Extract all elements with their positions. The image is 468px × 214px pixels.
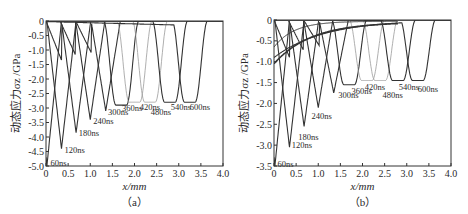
series-180ns [46,21,223,133]
series-label: 240ns [312,111,332,121]
series-label: 240ns [93,116,113,126]
chart-panel-a: 00.51.01.52.02.53.03.54.00-0.5-1.0-1.5-2… [0,0,234,214]
y-tick-label: -4.5 [28,146,44,157]
y-tick-label: -5.0 [28,161,44,172]
chart-b-svg: 00.51.01.52.02.53.03.54.00-0.5-1.0-1.5-2… [234,0,468,214]
x-tick-label: 3.0 [401,168,414,179]
y-tick-label: -2.0 [256,98,272,109]
y-tick-label: -2.5 [256,119,272,130]
series-600ns [46,21,223,102]
y-tick-label: -1.5 [256,77,272,88]
series-label: 480ns [151,107,171,117]
x-tick-label: 2.0 [356,168,369,179]
series-label: 540ns [399,82,419,92]
x-tick-label: 0.5 [290,168,303,179]
series-360ns [46,21,223,105]
series-480ns [46,21,223,102]
x-tick-label: 1.0 [84,168,97,179]
x-tick-label: 3.0 [173,168,186,179]
x-tick-label: 2.0 [128,168,141,179]
series-label: 60ns [50,158,66,168]
y-tick-label: -3.0 [28,103,44,114]
x-tick-label: 0 [272,168,277,179]
series-540ns [46,21,223,102]
series-label: 540ns [171,102,191,112]
x-tick-label: 1.0 [312,168,325,179]
series-label: 120ns [65,145,85,155]
series-label: 180ns [298,132,318,142]
y-tick-label: -3.5 [28,117,44,128]
y-tick-label: -3.5 [256,161,272,172]
x-tick-label: 0.5 [62,168,75,179]
panel-caption: （a） [121,196,148,208]
x-tick-label: 2.5 [378,168,391,179]
series-label: 60ns [278,159,294,169]
y-tick-label: -1.0 [28,45,44,56]
series-label: 180ns [79,128,99,138]
y-tick-label: -2.5 [28,88,44,99]
y-tick-label: 0 [267,15,272,26]
y-axis-title: 动态应力σz /GPa [9,54,22,134]
x-axis-title: x/mm [122,180,147,192]
y-tick-label: -1.0 [256,56,272,67]
y-axis-title: 动态应力σz /GPa [237,53,250,133]
x-tick-label: 3.5 [195,168,208,179]
y-tick-label: -3.0 [256,140,272,151]
series-420ns [46,21,223,102]
panel-caption: （b） [349,196,377,208]
x-tick-label: 4.0 [445,168,458,179]
chart-panel-b: 00.51.01.52.02.53.03.54.00-0.5-1.0-1.5-2… [234,0,468,214]
y-tick-label: -0.5 [28,30,44,41]
y-tick-label: -4.0 [28,132,44,143]
x-tick-label: 1.5 [334,168,347,179]
series-label: 600ns [418,84,438,94]
y-tick-label: 0 [39,16,44,27]
y-tick-label: -1.5 [28,59,44,70]
x-tick-label: 0 [44,168,49,179]
x-tick-label: 2.5 [150,168,163,179]
x-tick-label: 4.0 [217,168,230,179]
series-label: 600ns [190,102,210,112]
y-tick-label: -2.0 [28,74,44,85]
y-tick-label: -0.5 [256,35,272,46]
series-300ns [46,21,223,111]
chart-a-svg: 00.51.01.52.02.53.03.54.00-0.5-1.0-1.5-2… [0,0,234,214]
x-tick-label: 1.5 [106,168,119,179]
x-tick-label: 3.5 [423,168,436,179]
series-300ns [274,20,451,93]
x-axis-title: x/mm [350,180,375,192]
